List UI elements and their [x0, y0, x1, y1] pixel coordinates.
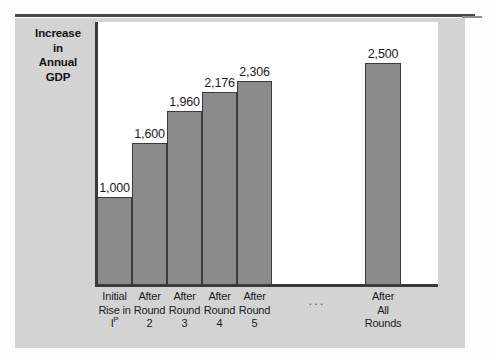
- category-label: AfterRound5: [228, 290, 282, 331]
- bar-value-label: 2,176: [204, 76, 234, 90]
- bar-value-label: 2,306: [239, 65, 269, 79]
- bar-value-label: 1,600: [134, 127, 164, 141]
- top-rule-divider: [15, 14, 475, 17]
- bar: [132, 143, 167, 285]
- top-rule-tail: [462, 16, 482, 18]
- bar-value-label: 1,000: [99, 181, 129, 195]
- y-axis-title-line-1: Increase: [24, 26, 92, 41]
- y-axis-title-line-4: GDP: [24, 70, 92, 85]
- bar: [237, 81, 272, 286]
- ellipsis-annotation: ...: [300, 293, 334, 308]
- bar: [202, 92, 237, 285]
- multiplier-bar-chart-figure: Increase in Annual GDP 1,000 1,600 1,960…: [0, 0, 490, 360]
- bar-value-label: 1,960: [169, 95, 199, 109]
- category-label: AfterAllRounds: [356, 290, 410, 331]
- y-axis-title-line-2: in: [24, 41, 92, 56]
- bar: [167, 111, 202, 285]
- bar-value-label: 2,500: [368, 47, 398, 61]
- bar: [365, 63, 401, 285]
- bar: [97, 197, 132, 286]
- y-axis-title-line-3: Annual: [24, 55, 92, 70]
- y-axis-title: Increase in Annual GDP: [24, 26, 92, 84]
